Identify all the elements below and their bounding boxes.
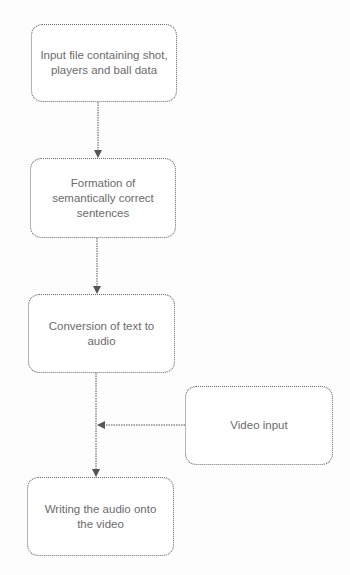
node-text-to-audio-label: Conversion of text to audio	[37, 319, 166, 349]
node-write-audio: Writing the audio onto the video	[27, 477, 174, 556]
flowchart-canvas: Input file containing shot, players and …	[0, 0, 350, 575]
node-sentence-formation: Formation of semantically correct senten…	[30, 158, 176, 238]
node-text-to-audio: Conversion of text to audio	[28, 294, 175, 373]
node-input-file: Input file containing shot, players and …	[31, 24, 177, 102]
node-sentence-formation-label: Formation of semantically correct senten…	[39, 176, 167, 221]
node-video-input: Video input	[185, 386, 333, 465]
node-input-file-label: Input file containing shot, players and …	[40, 48, 168, 78]
node-write-audio-label: Writing the audio onto the video	[36, 502, 165, 532]
node-video-input-label: Video input	[230, 418, 287, 433]
